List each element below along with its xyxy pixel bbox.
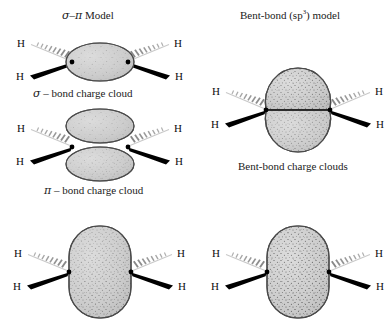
bent-bond-charge-cloud-lower — [265, 110, 330, 152]
carbon-atom-right — [126, 60, 131, 65]
hydrogen-label-p4-upper-right: H — [177, 248, 185, 259]
panel-pi-bond — [30, 109, 170, 181]
hydrogen-label-p2-lower-right: H — [175, 156, 183, 167]
panel-bent-bond — [225, 68, 371, 152]
hashed-wedge-bond-upper-right — [133, 253, 172, 271]
hydrogen-label-p3-lower-right: H — [376, 119, 384, 130]
hydrogen-label-p1-upper-left: H — [17, 38, 25, 49]
panel-bent-bond-combined — [225, 226, 371, 318]
combined-charge-cloud — [69, 226, 131, 318]
panel-sigma-pi-combined — [27, 226, 173, 318]
hydrogen-label-p3-upper-right: H — [375, 86, 383, 97]
solid-wedge-bond-lower-left — [27, 273, 69, 290]
solid-wedge-bond-lower-left — [30, 63, 72, 80]
hydrogen-label-p5-lower-left: H — [211, 281, 219, 292]
hashed-wedge-bond-upper-left — [226, 253, 265, 271]
pi-charge-cloud-upper — [66, 109, 134, 143]
hydrogen-label-p1-lower-left: H — [16, 71, 24, 82]
carbon-atom-left — [70, 60, 75, 65]
carbon-atom-left — [265, 270, 270, 275]
hydrogen-label-p5-upper-left: H — [212, 248, 220, 259]
solid-wedge-bond-lower-left — [225, 273, 267, 290]
hydrogen-label-p1-upper-right: H — [174, 38, 182, 49]
hashed-wedge-bond-upper-left — [31, 43, 70, 61]
hashed-wedge-bond-upper-right — [332, 91, 370, 109]
hydrogen-label-p4-lower-left: H — [13, 281, 21, 292]
carbon-atom-left — [70, 145, 75, 150]
combined-charge-cloud — [267, 226, 329, 318]
hydrogen-label-p2-upper-right: H — [174, 123, 182, 134]
carbon-atom-left — [67, 270, 72, 275]
carbon-atom-right — [328, 108, 333, 113]
hydrogen-label-p2-upper-left: H — [17, 123, 25, 134]
solid-wedge-bond-lower-right — [329, 273, 371, 290]
diagram-svg-layer — [0, 0, 391, 329]
hashed-wedge-bond-upper-right — [130, 43, 169, 61]
hashed-wedge-bond-upper-right — [130, 128, 169, 146]
hydrogen-label-p3-lower-left: H — [211, 119, 219, 130]
bent-bond-charge-cloud-upper — [265, 68, 330, 110]
hydrogen-label-p2-lower-left: H — [16, 156, 24, 167]
carbon-atom-right — [327, 270, 332, 275]
solid-wedge-bond-lower-right — [330, 111, 371, 128]
hydrogen-label-p4-upper-left: H — [14, 248, 22, 259]
hydrogen-label-p1-lower-right: H — [175, 71, 183, 82]
hydrogen-label-p3-upper-left: H — [212, 86, 220, 97]
solid-wedge-bond-lower-left — [225, 111, 266, 128]
sigma-charge-cloud — [66, 43, 134, 81]
hashed-wedge-bond-upper-left — [226, 91, 264, 109]
hashed-wedge-bond-upper-left — [28, 253, 67, 271]
hashed-wedge-bond-upper-right — [331, 253, 370, 271]
hashed-wedge-bond-upper-left — [31, 128, 70, 146]
figure-canvas: σ–π Model Bent-bond (sp3) model σ – bond… — [0, 0, 391, 329]
hydrogen-label-p4-lower-right: H — [178, 281, 186, 292]
solid-wedge-bond-lower-right — [128, 63, 170, 80]
panel-sigma-bond — [30, 43, 170, 81]
hydrogen-label-p5-upper-right: H — [375, 248, 383, 259]
carbon-atom-left — [264, 108, 269, 113]
pi-charge-cloud-lower — [66, 147, 134, 181]
hydrogen-label-p5-lower-right: H — [376, 281, 384, 292]
carbon-atom-right — [126, 145, 131, 150]
solid-wedge-bond-lower-right — [131, 273, 173, 290]
carbon-atom-right — [129, 270, 134, 275]
